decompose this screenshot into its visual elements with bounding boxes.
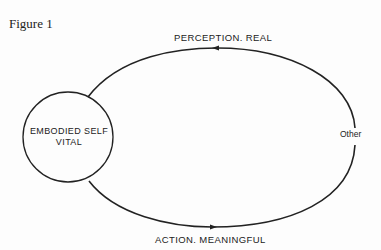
arrow-left-icon bbox=[212, 46, 219, 51]
perception-arc bbox=[88, 48, 355, 128]
self-label: EMBODIED SELF VITAL bbox=[25, 126, 113, 147]
arrow-right-icon bbox=[210, 225, 217, 230]
figure-page: Figure 1 EMBODIED SELF VITAL Other PERCE… bbox=[0, 0, 381, 250]
perception-label: PERCEPTION. REAL bbox=[174, 32, 272, 43]
action-label: ACTION. MEANINGFUL bbox=[155, 234, 266, 245]
self-label-line2: VITAL bbox=[25, 137, 113, 147]
self-label-line1: EMBODIED SELF bbox=[25, 126, 113, 136]
action-arc bbox=[89, 145, 355, 227]
other-label: Other bbox=[340, 129, 361, 139]
